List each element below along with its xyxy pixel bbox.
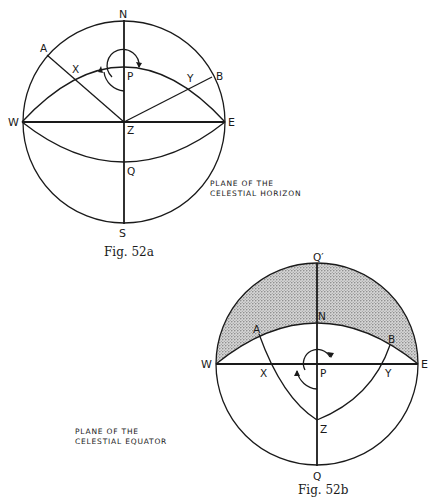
label-q: Q <box>127 165 135 177</box>
label-p: P <box>320 367 326 379</box>
label-x: X <box>72 63 79 75</box>
label-e: E <box>421 358 428 371</box>
label-q: Q <box>313 470 321 482</box>
plane-label-line1: PLANE OF THE <box>75 427 139 436</box>
label-y: Y <box>384 367 392 379</box>
label-w: W <box>8 116 19 129</box>
figure-52b: Q′ Q W E N P Z A B X Y PLANE OF THE CELE… <box>75 251 428 497</box>
label-y: Y <box>186 72 194 84</box>
label-w: W <box>201 358 212 371</box>
label-p: P <box>127 70 133 82</box>
line-a-z <box>47 55 124 122</box>
label-z: Z <box>127 124 134 136</box>
label-n: N <box>119 8 127 21</box>
figure-52a: N S W E Z P Q A B X Y PLANE OF THE CELES… <box>8 8 301 259</box>
rotation-arc-inner <box>104 72 124 91</box>
diagram-canvas: N S W E Z P Q A B X Y PLANE OF THE CELES… <box>0 0 435 497</box>
label-q-prime: Q′ <box>313 251 324 263</box>
label-s: S <box>119 227 126 240</box>
label-a: A <box>40 42 48 54</box>
label-a: A <box>253 323 261 335</box>
rotation-arc-inner <box>297 371 317 389</box>
label-b: B <box>216 70 223 82</box>
label-e: E <box>228 116 235 129</box>
figure-caption: Fig. 52a <box>104 245 154 259</box>
plane-label-line1: PLANE OF THE <box>210 179 274 188</box>
arrowhead-icon <box>136 62 142 68</box>
plane-label-line2: CELESTIAL HORIZON <box>210 189 301 198</box>
plane-label-line2: CELESTIAL EQUATOR <box>75 437 167 446</box>
label-x: X <box>260 367 267 379</box>
label-n: N <box>318 310 326 322</box>
label-z: Z <box>320 423 327 435</box>
arc-a-z <box>259 334 317 420</box>
rotation-arc-outer <box>107 49 139 77</box>
figure-caption: Fig. 52b <box>298 483 349 497</box>
label-b: B <box>388 333 395 345</box>
arrowhead-icon <box>294 370 300 376</box>
arc-b-z <box>317 345 390 420</box>
line-z-b <box>124 77 212 122</box>
